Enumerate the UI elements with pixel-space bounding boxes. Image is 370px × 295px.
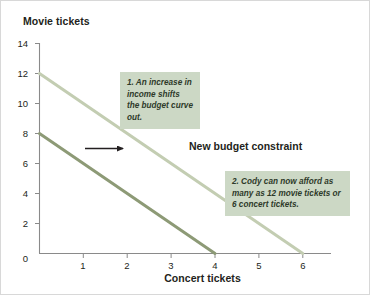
y-tick-label-14: 14 [4, 38, 28, 49]
y-tick-label-12: 12 [4, 68, 28, 79]
annotation-callout-affordability: 2. Cody can now afford as many as 12 mov… [225, 171, 350, 216]
y-tick-label-10: 10 [4, 98, 28, 109]
y-tick-label-8: 8 [4, 128, 28, 139]
x-axis-title: Concert tickets [36, 272, 369, 284]
x-tick-label-6: 6 [293, 260, 313, 271]
x-tick-label-2: 2 [117, 260, 137, 271]
budget-constraint-chart-figure: Movie tickets Concert tickets 14 12 10 8… [0, 0, 370, 295]
x-tick-label-4: 4 [205, 260, 225, 271]
y-tick-label-4: 4 [4, 188, 28, 199]
new-budget-constraint-label: New budget constraint [189, 140, 302, 152]
x-tick-label-1: 1 [73, 260, 93, 271]
y-tick-label-6: 6 [4, 158, 28, 169]
x-axis-ticks [83, 254, 302, 259]
y-axis-title: Movie tickets [23, 15, 90, 27]
y-tick-label-2: 2 [4, 218, 28, 229]
annotation-callout-income-shift: 1. An increase in income shifts the budg… [120, 72, 200, 129]
chart-plot-area [1, 1, 370, 295]
y-tick-label-0: 0 [4, 253, 28, 264]
x-tick-label-3: 3 [161, 260, 181, 271]
x-tick-label-5: 5 [249, 260, 269, 271]
